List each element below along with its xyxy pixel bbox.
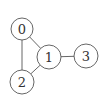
node-label: 0 (18, 22, 26, 37)
node-1: 1 (37, 45, 61, 69)
node-label: 3 (82, 49, 90, 64)
node-0: 0 (11, 18, 33, 40)
node-2: 2 (10, 70, 34, 94)
graph-diagram: 0123 (0, 0, 108, 102)
nodes-group: 0123 (10, 18, 98, 94)
edge-0-1 (30, 37, 41, 48)
node-label: 2 (18, 75, 26, 90)
node-label: 1 (45, 50, 53, 65)
node-3: 3 (74, 44, 98, 68)
edge-1-2 (31, 65, 40, 74)
